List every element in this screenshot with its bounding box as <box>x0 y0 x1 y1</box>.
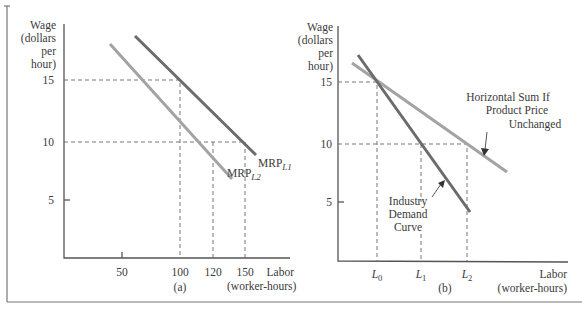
panel-a-ytick-15: 15 <box>43 74 55 86</box>
horizontal-sum-label-3: Unchanged <box>509 118 562 131</box>
industry-demand-arrow-line <box>432 184 441 197</box>
panel-a-xtick-150: 150 <box>236 266 254 278</box>
panel-b-ytick-15: 15 <box>321 76 333 88</box>
mrp-l1-label: MRPL1 <box>258 157 292 172</box>
industry-demand-label-2: Demand <box>389 208 428 220</box>
panel-b-ylabel-2: (dollars <box>298 34 334 47</box>
figure: Wage (dollars per hour) 15 10 5 MRPL1 MR… <box>0 0 582 312</box>
panel-a-ytick-10: 10 <box>43 136 55 148</box>
panel-a-xlabel-1: Labor <box>267 266 295 278</box>
horizontal-sum-label-1: Horizontal Sum If <box>466 91 550 103</box>
panel-a-ylabel-2: (dollars <box>21 32 57 45</box>
panel-b-xlabel-1: Labor <box>540 268 568 280</box>
panel-b-ytick-5: 5 <box>326 196 332 208</box>
industry-demand-label-3: Curve <box>394 221 422 233</box>
panel-b-ylabel-3: per <box>318 47 333 60</box>
horizontal-sum-label-2: Product Price <box>486 104 548 116</box>
panel-b-ylabel-1: Wage <box>307 21 333 34</box>
panel-a-xlabel-2: (worker-hours) <box>227 280 297 293</box>
panel-a-ylabel-1: Wage <box>30 19 56 32</box>
panel-a-xtick-50: 50 <box>116 266 128 278</box>
panel-a-label: (a) <box>174 281 187 294</box>
horizontal-sum-arrow-line <box>485 132 487 150</box>
panel-a: Wage (dollars per hour) 15 10 5 MRPL1 MR… <box>21 19 297 294</box>
panel-a-ytick-5: 5 <box>48 194 54 206</box>
panel-a-ylabel-4: hour) <box>31 58 56 71</box>
panel-b-ytick-10: 10 <box>321 138 333 150</box>
panel-b-xtick-l2: L2 <box>461 268 473 283</box>
industry-demand-label-1: Industry <box>389 195 428 208</box>
panel-b-ref-15-l0 <box>338 82 377 261</box>
panel-a-xtick-100: 100 <box>171 266 189 278</box>
panel-b: Wage (dollars per hour) 15 10 5 Horizont… <box>298 21 568 295</box>
panel-b-xtick-l1: L1 <box>415 268 427 283</box>
mrp-l2-label: MRPL2 <box>227 167 261 182</box>
panel-b-xtick-l0: L0 <box>371 268 383 283</box>
panel-b-ylabel-4: hour) <box>308 60 333 73</box>
panel-a-axes <box>64 24 290 258</box>
panel-a-ylabel-3: per <box>41 45 56 58</box>
panel-b-xlabel-2: (worker-hours) <box>498 282 568 295</box>
panel-b-label: (b) <box>438 282 452 295</box>
panel-a-ref-15-100 <box>64 80 180 258</box>
panel-a-xtick-120: 120 <box>204 266 222 278</box>
